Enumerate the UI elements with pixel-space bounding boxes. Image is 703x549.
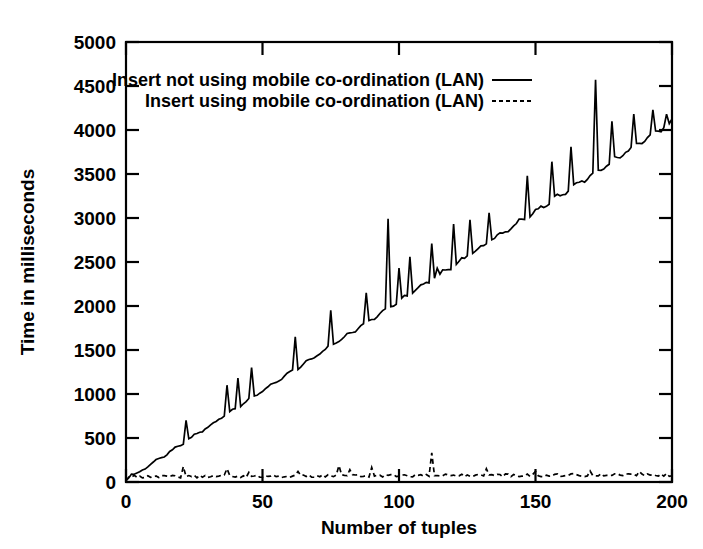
y-tick-label: 1000 [74, 384, 116, 405]
y-tick-label: 1500 [74, 340, 116, 361]
chart-legend: Insert not using mobile co-ordination (L… [112, 70, 532, 111]
y-tick-label: 4500 [74, 76, 116, 97]
y-tick-label: 500 [84, 428, 116, 449]
y-tick-label: 2500 [74, 252, 116, 273]
x-tick-label: 100 [383, 491, 415, 512]
y-tick-label: 0 [105, 472, 116, 493]
y-tick-label: 4000 [74, 120, 116, 141]
chart-figure: 0 500 1000 1500 2000 2500 3000 3500 4000… [0, 0, 703, 549]
x-tick-label: 0 [121, 491, 132, 512]
legend-label-1: Insert using mobile co-ordination (LAN) [145, 91, 484, 111]
y-tick-label: 3000 [74, 208, 116, 229]
y-tick-label: 3500 [74, 164, 116, 185]
line-chart: 0 500 1000 1500 2000 2500 3000 3500 4000… [0, 0, 703, 549]
x-tick-label: 200 [656, 491, 688, 512]
y-axis-title: Time in milliseconds [17, 169, 38, 356]
x-axis-title: Number of tuples [321, 517, 477, 538]
x-tick-label: 150 [520, 491, 552, 512]
legend-label-0: Insert not using mobile co-ordination (L… [112, 70, 484, 90]
x-tick-label: 50 [252, 491, 273, 512]
y-tick-label: 2000 [74, 296, 116, 317]
y-tick-label: 5000 [74, 32, 116, 53]
